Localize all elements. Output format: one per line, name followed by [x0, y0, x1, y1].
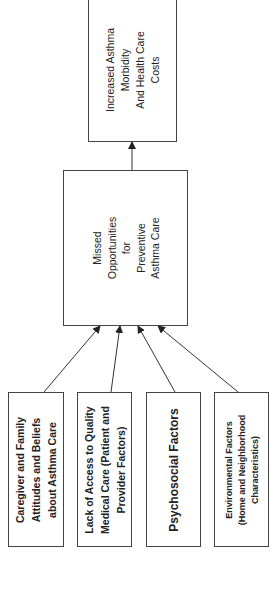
outcome-label: Increased Asthma Morbidity And Health Ca…	[103, 0, 163, 140]
factor-box-environmental: Environmental Factors (Home and Neighbor…	[214, 392, 269, 547]
factor-label-caregiver: Caregiver and Family Attitudes and Belie…	[12, 395, 60, 545]
factor-label-access: Lack of Access to Quality Medical Care (…	[81, 395, 129, 545]
outcome-box: Increased Asthma Morbidity And Health Ca…	[88, 0, 177, 142]
arrow-factor-2	[111, 326, 120, 392]
missed-opportunities-box: Missed Opportunities for Preventive Asth…	[63, 170, 188, 326]
missed-opportunities-label: Missed Opportunities for Preventive Asth…	[89, 173, 162, 323]
factor-label-psychosocial: Psychosocial Factors	[166, 395, 182, 545]
factor-box-access: Lack of Access to Quality Medical Care (…	[77, 392, 132, 547]
factor-box-caregiver: Caregiver and Family Attitudes and Belie…	[8, 392, 64, 547]
arrow-factor-1	[44, 326, 100, 392]
factor-label-environmental: Environmental Factors (Home and Neighbor…	[222, 395, 261, 545]
factor-box-psychosocial: Psychosocial Factors	[146, 392, 201, 547]
